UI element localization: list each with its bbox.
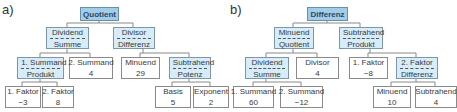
- a-node-summand2: 2. Summand 4: [69, 57, 113, 79]
- b-node-summand1: 1. Summand 60: [233, 86, 274, 108]
- node-role: 1. Faktor: [7, 87, 39, 97]
- node-role: Minuend: [278, 28, 311, 39]
- node-value: Summe: [54, 39, 82, 49]
- node-role: 2. Summand: [68, 58, 113, 68]
- node-value: Produkt: [27, 69, 55, 79]
- node-value: Produkt: [347, 39, 375, 49]
- node-role: Minuend: [125, 58, 156, 68]
- node-value: Differenz: [118, 39, 150, 49]
- node-text: Quotient: [83, 10, 116, 19]
- b-node-summand2: 2. Summand −12: [280, 86, 323, 108]
- node-role: Subtrahend: [173, 58, 207, 69]
- a-node-minuend: Minuend 29: [121, 57, 160, 79]
- node-role: Minuend: [377, 87, 408, 97]
- a-node-divisor-differenz: Divisor Differenz: [113, 27, 155, 49]
- b-node-divisor: Divisor 4: [296, 57, 339, 79]
- node-role: Subtrahend: [415, 87, 456, 97]
- b-node-minuend-quotient: Minuend Quotient: [274, 27, 314, 49]
- node-role: Dividend: [249, 58, 285, 69]
- b-node-dividend-summe: Dividend Summe: [245, 57, 289, 79]
- node-value: 5: [171, 97, 175, 107]
- node-role: 1. Summand: [21, 58, 60, 69]
- node-value: Potenz: [178, 69, 203, 79]
- a-node-faktor1: 1. Faktor −3: [5, 86, 41, 108]
- node-value: 8: [56, 97, 60, 107]
- node-role: 1. Summand: [231, 87, 276, 97]
- node-value: 4: [434, 97, 438, 107]
- node-value: 60: [249, 97, 258, 107]
- a-node-summand1-produkt: 1. Summand Produkt: [17, 57, 64, 79]
- node-text: Differenz: [310, 10, 344, 19]
- term-tree-diagrams: a) Quotient Dividend Summe Divisor Diffe…: [0, 0, 457, 112]
- node-value: 29: [136, 68, 145, 78]
- node-role: Exponent: [194, 87, 228, 97]
- node-value: 4: [315, 68, 319, 78]
- b-root-differenz: Differenz: [307, 7, 348, 21]
- a-node-basis: Basis 5: [155, 86, 191, 108]
- b-node-minuend: Minuend 10: [373, 86, 411, 108]
- b-node-subtrahend: Subtrahend 4: [415, 86, 457, 108]
- node-value: Quotient: [279, 39, 309, 49]
- b-node-subtrahend-produkt: Subtrahend Produkt: [339, 27, 383, 49]
- diagram-b-label: b): [230, 2, 242, 17]
- a-root-quotient: Quotient: [80, 7, 119, 21]
- a-node-dividend-summe: Dividend Summe: [46, 27, 89, 49]
- node-role: Basis: [163, 87, 183, 97]
- node-value: −12: [295, 97, 309, 107]
- node-role: 2. Faktor: [400, 58, 434, 69]
- a-node-subtrahend-potenz: Subtrahend Potenz: [169, 57, 211, 79]
- node-role: Divisor: [117, 28, 151, 39]
- a-node-exponent: Exponent 2: [193, 86, 229, 108]
- node-value: −8: [364, 68, 373, 78]
- a-node-faktor2: 2. Faktor 8: [42, 86, 74, 108]
- node-role: 2. Faktor: [42, 87, 74, 97]
- node-value: Differenz: [401, 69, 433, 79]
- diagram-a-label: a): [2, 2, 14, 17]
- node-value: Summe: [253, 69, 281, 79]
- node-role: Dividend: [50, 28, 85, 39]
- node-value: 4: [89, 68, 93, 78]
- node-value: −3: [18, 97, 27, 107]
- node-role: Divisor: [305, 58, 329, 68]
- node-role: 2. Summand: [279, 87, 324, 97]
- node-role: Subtrahend: [343, 28, 379, 39]
- node-role: 1. Faktor: [353, 58, 385, 68]
- node-value: 10: [388, 97, 397, 107]
- b-node-faktor1: 1. Faktor −8: [349, 57, 388, 79]
- node-value: 2: [209, 97, 213, 107]
- b-node-faktor2-differenz: 2. Faktor Differenz: [396, 57, 438, 79]
